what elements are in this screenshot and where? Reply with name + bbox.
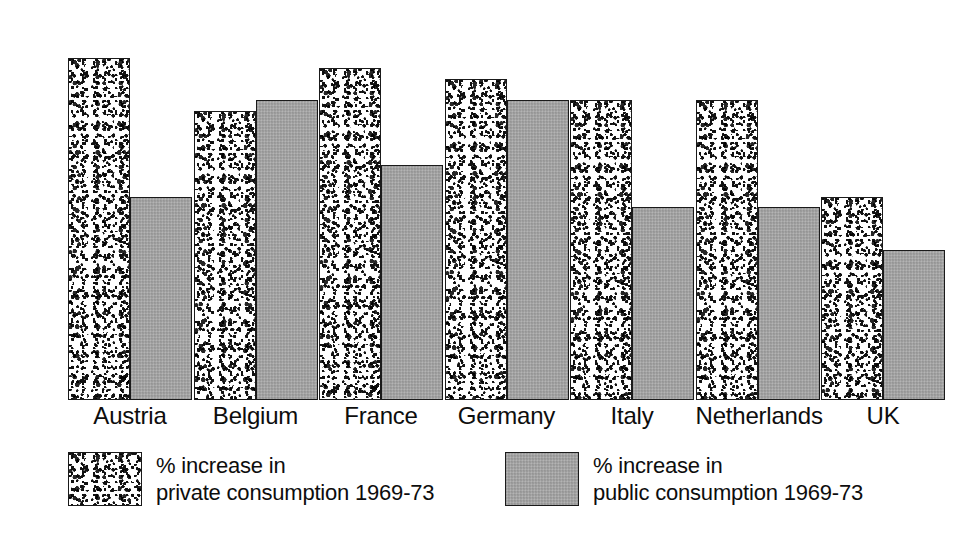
x-axis-label-uk: UK <box>821 404 945 428</box>
chart-legend: % increase inprivate consumption 1969-73… <box>0 452 980 542</box>
bar-france-private: 31 <box>319 68 381 400</box>
legend-item-public: % increase inpublic consumption 1969-73 <box>505 452 863 507</box>
speckle-swatch <box>68 452 142 506</box>
bar-uk-private: 19 <box>821 197 883 400</box>
bar-chart: 3219Austria2728Belgium3122France3028Germ… <box>0 0 980 542</box>
bar-netherlands-private: 28 <box>696 100 758 400</box>
legend-label: % increase inprivate consumption 1969-73 <box>156 452 434 507</box>
bar-belgium-private: 27 <box>194 111 256 400</box>
x-axis-label-netherlands: Netherlands <box>696 404 820 428</box>
plot-area: 3219Austria2728Belgium3122France3028Germ… <box>0 0 980 410</box>
legend-label: % increase inpublic consumption 1969-73 <box>593 452 863 507</box>
x-axis-label-france: France <box>319 404 443 428</box>
bar-france-public: 22 <box>381 165 443 400</box>
x-axis-label-austria: Austria <box>68 404 192 428</box>
bar-belgium-public: 28 <box>256 100 318 400</box>
x-axis-label-belgium: Belgium <box>194 404 318 428</box>
grey-swatch <box>505 452 579 506</box>
legend-label-line1: % increase in <box>156 453 434 480</box>
bar-italy-private: 28 <box>570 100 632 400</box>
bar-italy-public: 18 <box>632 207 694 400</box>
bar-germany-private: 30 <box>445 79 507 400</box>
legend-label-line1: % increase in <box>593 453 863 480</box>
bar-uk-public: 14 <box>883 250 945 400</box>
legend-label-line2: private consumption 1969-73 <box>156 480 434 507</box>
bar-austria-private: 32 <box>68 58 130 400</box>
bar-germany-public: 28 <box>507 100 569 400</box>
x-axis-label-germany: Germany <box>445 404 569 428</box>
bar-netherlands-public: 18 <box>758 207 820 400</box>
legend-label-line2: public consumption 1969-73 <box>593 480 863 507</box>
bar-austria-public: 19 <box>130 197 192 400</box>
x-axis-label-italy: Italy <box>570 404 694 428</box>
legend-item-private: % increase inprivate consumption 1969-73 <box>68 452 434 507</box>
